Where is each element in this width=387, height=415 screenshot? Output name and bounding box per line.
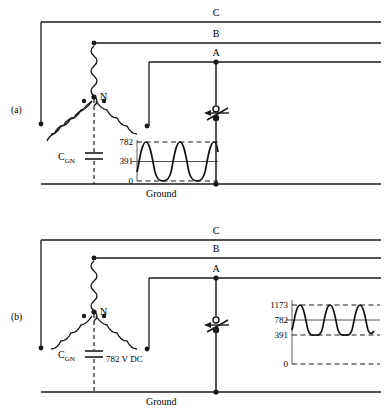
panel-b-fault-branch [213, 275, 218, 392]
panel-a-winding-a-tap-dot [102, 99, 106, 103]
panel-b-switch-open-contact[interactable] [213, 317, 219, 323]
panel-b-phase-c-label: C [213, 225, 220, 236]
panel-b-ground-label: Ground [146, 396, 177, 407]
panel-b-waveform: 1173 782 391 0 [270, 300, 380, 369]
panel-b-waveform-tick-peak: 1173 [270, 300, 288, 310]
panel-b-phase-c-terminal-dot [39, 346, 44, 351]
panel-b-phase-b-label: B [213, 243, 220, 254]
panel-a: (a) C B A N [11, 7, 381, 199]
panel-a-waveform-tick-peak: 782 [120, 137, 134, 147]
panel-b-capacitor-label-sub: GN [65, 355, 75, 363]
panel-a-phase-c-terminal-dot [39, 122, 44, 127]
panel-a-winding-c [47, 101, 92, 141]
panel-a-phase-a-conductor [149, 62, 381, 126]
panel-b-phase-a-label: A [212, 263, 220, 274]
panel-b-neutral-node-dot [91, 309, 96, 314]
panel-b-winding-a-tap-dot [102, 314, 106, 318]
panel-a-capacitor-label: CGN [58, 151, 75, 165]
panel-a-winding-c-tap-dot [82, 99, 86, 103]
panel-b-winding-c [51, 316, 92, 349]
panel-a-waveform: 782 391 0 [120, 137, 219, 186]
panel-b: (b) C B A N [11, 225, 381, 407]
panel-a-phase-a-label: A [212, 47, 220, 58]
panel-b-phase-b-junction-dot [92, 256, 97, 261]
panel-a-label: (a) [11, 105, 22, 116]
panel-a-winding-a [96, 101, 137, 134]
panel-a-ground-label: Ground [146, 188, 177, 199]
three-phase-grounding-diagram: (a) C B A N [0, 0, 387, 415]
panel-a-neutral-node-dot [91, 94, 96, 99]
panel-b-winding-c-tap-dot [82, 314, 86, 318]
panel-a-phase-b-junction-dot [92, 41, 97, 46]
panel-b-switch[interactable] [204, 317, 229, 333]
panel-a-capacitor-label-sub: GN [65, 157, 75, 165]
panel-b-ground-junction-dot [213, 389, 218, 394]
panel-b-winding-a [96, 316, 137, 349]
panel-b-label: (b) [11, 312, 22, 323]
panel-b-dc-offset-label: 782 V DC [106, 354, 143, 364]
panel-b-waveform-tick-mid: 782 [275, 315, 289, 325]
panel-a-phase-a-terminal-dot [145, 124, 150, 129]
panel-a-waveform-tick-mid: 391 [120, 156, 134, 166]
panel-a-ground-junction-dot [213, 181, 218, 186]
panel-b-phase-c-conductor [41, 240, 381, 348]
panel-a-fault-branch [213, 59, 218, 184]
panel-b-phase-a-tap-dot [213, 275, 218, 280]
panel-b-waveform-tick-zero: 0 [284, 359, 289, 369]
panel-a-phase-b-label: B [213, 28, 220, 39]
panel-b-phase-a-conductor [149, 278, 381, 349]
panel-a-switch[interactable] [204, 106, 229, 121]
panel-a-phase-a-tap-dot [213, 59, 218, 64]
panel-a-phase-c-label: C [213, 7, 220, 18]
panel-a-switch-open-contact[interactable] [213, 106, 219, 112]
panel-a-capacitor-cgn [85, 153, 103, 159]
panel-b-phase-a-terminal-dot [145, 347, 150, 352]
panel-b-capacitor-cgn [85, 351, 103, 357]
panel-b-waveform-tick-trough: 391 [275, 330, 289, 340]
panel-b-capacitor-label: CGN [58, 349, 75, 363]
figure-canvas: (a) C B A N [0, 0, 387, 415]
